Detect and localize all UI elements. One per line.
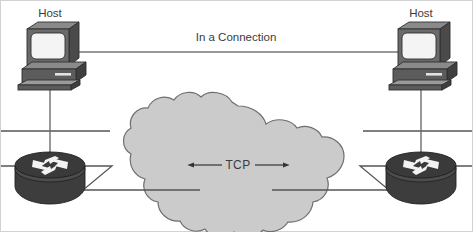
network-diagram: In a Connection TCP Host (0, 0, 473, 232)
tcp-label: TCP (225, 158, 250, 172)
connection-label: In a Connection (196, 31, 277, 43)
router-left-node (15, 152, 85, 204)
router-right-node (386, 152, 456, 204)
workstation-icon (18, 22, 86, 90)
workstation-icon (389, 22, 457, 90)
router-icon (15, 152, 85, 204)
host-right-label: Host (409, 7, 433, 19)
router-icon (386, 152, 456, 204)
host-left-label: Host (38, 7, 62, 19)
